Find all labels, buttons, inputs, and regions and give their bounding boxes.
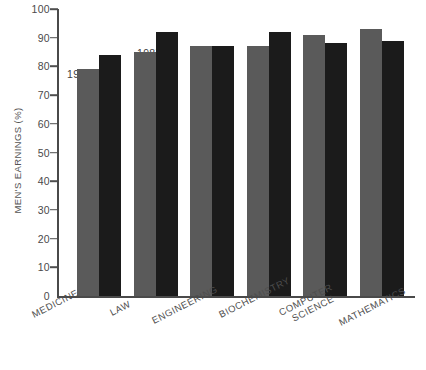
- y-tick-label: 40: [22, 175, 50, 187]
- bar-group: [134, 9, 178, 296]
- x-axis-label-group: MEDICINELAWENGINEERINGBIOCHEMISTRYCOMPUT…: [0, 298, 426, 370]
- bar-chart: MEN'S EARNINGS (%) 010203040506070809010…: [0, 0, 426, 370]
- y-tick-label: 20: [22, 233, 50, 245]
- plot-area: 1984 1987: [59, 9, 415, 296]
- bar-group: [360, 9, 404, 296]
- bar-1984-computer-science: [303, 35, 325, 296]
- bar-group: [247, 9, 291, 296]
- bar-1984-biochemistry: [247, 46, 269, 296]
- bar-1984-mathematics: [360, 29, 382, 296]
- bar-1984-law: [134, 52, 156, 296]
- bar-1987-engineering: [212, 46, 234, 296]
- bar-1984-medicine: [77, 69, 99, 296]
- y-tick-label: 60: [22, 118, 50, 130]
- bar-1987-medicine: [99, 55, 121, 296]
- bar-1984-engineering: [190, 46, 212, 296]
- bar-1987-biochemistry: [269, 32, 291, 296]
- y-tick-label: 100: [22, 3, 50, 15]
- x-axis-label-law: LAW: [108, 298, 132, 318]
- bar-group: [77, 9, 121, 296]
- y-tick-label: 70: [22, 89, 50, 101]
- bar-1987-computer-science: [325, 43, 347, 296]
- y-tick-label: 30: [22, 204, 50, 216]
- y-tick-label: 80: [22, 60, 50, 72]
- bar-1987-law: [156, 32, 178, 296]
- bar-group: [190, 9, 234, 296]
- y-tick-label: 10: [22, 261, 50, 273]
- y-tick-label: 90: [22, 32, 50, 44]
- bar-1987-mathematics: [382, 41, 404, 296]
- y-tick-label: 50: [22, 147, 50, 159]
- y-axis-title: MEN'S EARNINGS (%): [12, 81, 23, 241]
- bar-group: [303, 9, 347, 296]
